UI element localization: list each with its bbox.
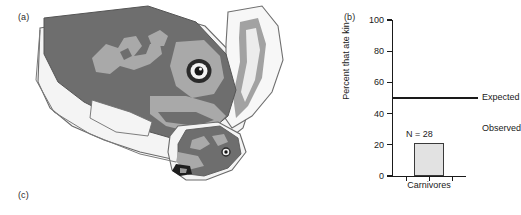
y-tick-label-20: 20 — [374, 140, 384, 150]
eye-pupil — [195, 67, 204, 76]
y-axis-title: Percent that ate kin — [341, 1, 351, 121]
y-tick-60: 60 — [387, 82, 392, 83]
pup-eye-pupil — [224, 150, 227, 153]
x-tick-right — [452, 176, 453, 181]
y-tick-100: 100 — [387, 19, 392, 20]
bar-carnivores — [414, 143, 444, 176]
y-tick-40: 40 — [387, 113, 392, 114]
panel-label-c: (c) — [18, 190, 29, 200]
expected-label: Expected — [482, 92, 520, 102]
y-tick-label-100: 100 — [369, 15, 384, 25]
y-tick-label-60: 60 — [374, 77, 384, 87]
observed-label: Observed — [482, 123, 521, 133]
expected-line — [392, 97, 478, 98]
y-tick-80: 80 — [387, 51, 392, 52]
carnivore-head-illustration — [0, 0, 300, 200]
y-tick-label-0: 0 — [379, 171, 384, 181]
sample-size-annotation: N = 28 — [406, 129, 433, 139]
y-tick-label-40: 40 — [374, 109, 384, 119]
y-tick-20: 20 — [387, 144, 392, 145]
eye-highlight — [199, 68, 202, 71]
plot-area: 020406080100 Carnivores — [392, 20, 466, 176]
y-tick-label-80: 80 — [374, 46, 384, 56]
x-category-label-carnivores: Carnivores — [407, 180, 451, 190]
y-tick-0: 0 — [387, 175, 392, 176]
bar-chart-panel: (b) Percent that ate kin 020406080100 Ca… — [330, 0, 518, 215]
